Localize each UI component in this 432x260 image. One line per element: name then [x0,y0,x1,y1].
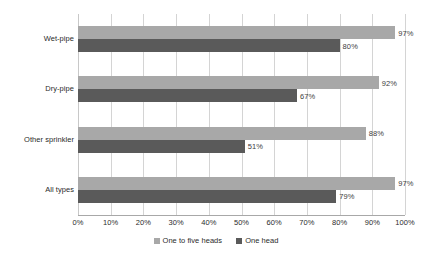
bar-row: 67% [78,89,405,102]
chart-legend: One to five headsOne head [0,236,432,245]
x-tick-label: 60% [267,218,282,227]
x-tick-label: 0% [73,218,84,227]
bar-value-label: 67% [300,91,315,100]
bar-group: 92%67% [78,76,405,102]
x-tick-label: 90% [365,218,380,227]
bar[interactable] [78,127,366,140]
x-tick-label: 20% [136,218,151,227]
category-label: All types [2,185,74,194]
bar-group: 88%51% [78,127,405,153]
legend-label: One to five heads [163,236,223,245]
x-tick-label: 50% [234,218,249,227]
bar[interactable] [78,190,336,203]
bar-value-label: 80% [343,41,358,50]
bar[interactable] [78,76,379,89]
bar-value-label: 97% [398,28,413,37]
bar-value-label: 79% [339,192,354,201]
legend-swatch-icon [154,238,160,244]
bar[interactable] [78,89,297,102]
bar-row: 80% [78,39,405,52]
x-tick-label: 10% [103,218,118,227]
bar[interactable] [78,177,395,190]
bar-row: 79% [78,190,405,203]
bar-value-label: 92% [382,78,397,87]
x-tick-label: 80% [332,218,347,227]
bar-value-label: 88% [369,129,384,138]
bar-group: 97%80% [78,26,405,52]
bar-row: 92% [78,76,405,89]
bar-row: 97% [78,26,405,39]
category-label: Dry-pipe [2,84,74,93]
x-axis-line [78,215,405,216]
bar-row: 88% [78,127,405,140]
bar-row: 51% [78,140,405,153]
bar[interactable] [78,39,340,52]
x-tick-label: 70% [299,218,314,227]
category-label: Wet-pipe [2,34,74,43]
x-tick-label: 100% [395,218,414,227]
bar[interactable] [78,26,395,39]
legend-label: One head [245,236,278,245]
category-label: Other sprinkler [2,135,74,144]
x-axis-tick-labels: 0%10%20%30%40%50%60%70%80%90%100% [78,218,405,230]
bar-value-label: 51% [248,142,263,151]
bar-row: 97% [78,177,405,190]
bar-group: 97%79% [78,177,405,203]
legend-item[interactable]: One head [236,236,278,245]
bar-value-label: 97% [398,179,413,188]
x-tick-label: 30% [169,218,184,227]
plot-area: 97%80%92%67%88%51%97%79% [78,14,405,215]
bar-chart: Wet-pipeDry-pipeOther sprinklerAll types… [0,0,432,260]
x-tick-label: 40% [201,218,216,227]
legend-item[interactable]: One to five heads [154,236,223,245]
legend-swatch-icon [236,238,242,244]
bar[interactable] [78,140,245,153]
category-axis: Wet-pipeDry-pipeOther sprinklerAll types [0,14,74,215]
